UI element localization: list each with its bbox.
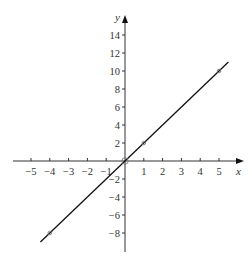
- x-tick-label: −3: [63, 166, 74, 177]
- y-axis-arrow-icon: [122, 15, 128, 23]
- x-tick-label: 2: [160, 166, 165, 177]
- y-tick-label: 8: [115, 84, 120, 95]
- y-tick-label: 6: [115, 102, 120, 113]
- x-axis-arrow-icon: [236, 158, 244, 164]
- y-tick-label: −4: [109, 192, 121, 203]
- y-tick-label: 14: [110, 30, 121, 41]
- y-tick-label: −6: [109, 210, 120, 221]
- ticks: −5−4−3−2−112345−8−6−4−22468101214: [25, 30, 221, 239]
- y-tick-label: 2: [115, 138, 120, 149]
- x-tick-label: −2: [82, 166, 93, 177]
- axes: [13, 15, 244, 252]
- series: [40, 62, 228, 242]
- y-tick-label: −8: [109, 228, 120, 239]
- y-tick-label: 12: [110, 48, 121, 59]
- axis-labels: x y: [114, 11, 241, 177]
- y-tick-label: 10: [110, 66, 121, 77]
- x-tick-label: 5: [216, 166, 221, 177]
- series-line: [40, 62, 228, 242]
- chart-canvas: −5−4−3−2−112345−8−6−4−22468101214 x y: [0, 0, 252, 264]
- x-axis-label: x: [235, 165, 241, 177]
- x-tick-label: −4: [44, 166, 56, 177]
- y-axis-label: y: [114, 11, 120, 23]
- x-tick-label: 3: [179, 166, 184, 177]
- x-tick-label: 4: [198, 166, 204, 177]
- x-tick-label: −5: [25, 166, 36, 177]
- y-tick-label: 4: [115, 120, 121, 131]
- x-tick-label: 1: [141, 166, 146, 177]
